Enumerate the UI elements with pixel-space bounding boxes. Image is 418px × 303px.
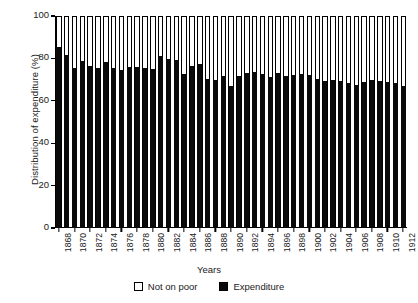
stacked-bar <box>244 16 249 228</box>
x-axis-tick-label: 1890 <box>235 233 245 252</box>
x-axis-tick-label: 1876 <box>125 233 135 252</box>
bar-slot <box>392 16 400 228</box>
bar-segment-expenditure <box>166 59 171 228</box>
stacked-bar <box>330 16 335 228</box>
x-axis-tick-label: 1872 <box>94 233 104 252</box>
stacked-bar <box>361 16 366 228</box>
bar-segment-expenditure <box>150 69 155 228</box>
stacked-bar <box>260 16 265 228</box>
bar-segment-expenditure <box>197 64 202 228</box>
y-axis-tick-label: 0 <box>44 221 49 232</box>
stacked-bar <box>299 16 304 228</box>
bar-slot <box>141 16 149 228</box>
bar-segment-expenditure <box>385 82 390 228</box>
bar-segment-expenditure <box>119 70 124 228</box>
x-axis-tick-label: 1910 <box>391 233 401 252</box>
stacked-bar <box>213 16 218 228</box>
stacked-bar <box>111 16 116 228</box>
stacked-bar <box>291 16 296 228</box>
stacked-bar <box>197 16 202 228</box>
bar-slot <box>352 16 360 228</box>
stacked-bar <box>56 16 61 228</box>
bar-slot <box>94 16 102 228</box>
x-axis-title: Years <box>0 264 418 275</box>
bar-slot <box>329 16 337 228</box>
x-axis-tick-label: 1882 <box>172 233 182 252</box>
bar-segment-expenditure <box>221 76 226 228</box>
bar-segment-expenditure <box>103 62 108 228</box>
x-axis-tick-mark <box>121 228 122 232</box>
bar-slot <box>102 16 110 228</box>
x-axis-tick-mark <box>230 228 231 232</box>
bar-segment-expenditure <box>88 66 93 228</box>
x-axis-tick-label: 1894 <box>266 233 276 252</box>
bar-slot <box>219 16 227 228</box>
legend-item-expenditure: Expenditure <box>219 281 284 292</box>
bar-segment-expenditure <box>143 68 148 228</box>
x-axis-tick-mark <box>293 228 294 232</box>
x-axis-tick-labels: 1868187018721874187618781880188218841886… <box>55 233 407 263</box>
x-axis-tick-mark <box>355 228 356 232</box>
stacked-bar <box>95 16 100 228</box>
x-axis-tick-mark <box>152 228 153 232</box>
bar-segment-expenditure <box>72 68 77 228</box>
bar-segment-expenditure <box>307 75 312 228</box>
stacked-bar <box>315 16 320 228</box>
x-axis-tick-label: 1870 <box>78 233 88 252</box>
bar-slot <box>345 16 353 228</box>
stacked-bar <box>174 16 179 228</box>
bar-segment-expenditure <box>315 79 320 228</box>
bar-slot <box>196 16 204 228</box>
bar-slot <box>71 16 79 228</box>
bar-slot <box>204 16 212 228</box>
bar-slot <box>313 16 321 228</box>
bar-slot <box>360 16 368 228</box>
x-axis-tick-label: 1884 <box>188 233 198 252</box>
bar-segment-expenditure <box>370 80 375 228</box>
legend-label-expenditure: Expenditure <box>233 281 284 292</box>
bar-segment-expenditure <box>362 82 367 228</box>
bar-segment-expenditure <box>135 67 140 228</box>
bar-segment-expenditure <box>401 86 406 228</box>
bar-segment-expenditure <box>299 74 304 228</box>
bar-slot <box>376 16 384 228</box>
bar-segment-expenditure <box>182 74 187 228</box>
stacked-bar <box>72 16 77 228</box>
bar-segment-expenditure <box>330 80 335 228</box>
stacked-bar <box>150 16 155 228</box>
x-axis-tick-label: 1906 <box>360 233 370 252</box>
bar-segment-expenditure <box>158 56 163 228</box>
bar-slot <box>251 16 259 228</box>
x-axis-tick-mark <box>58 228 59 232</box>
bar-slot <box>133 16 141 228</box>
stacked-bar <box>393 16 398 228</box>
stacked-bar <box>64 16 69 228</box>
bar-slot <box>172 16 180 228</box>
stacked-bar <box>322 16 327 228</box>
stacked-bar <box>307 16 312 228</box>
x-axis-tick-mark <box>74 228 75 232</box>
stacked-bar <box>221 16 226 228</box>
bar-segment-expenditure <box>338 81 343 228</box>
x-axis-tick-label: 1904 <box>344 233 354 252</box>
bar-segment-expenditure <box>56 47 61 228</box>
stacked-bar <box>385 16 390 228</box>
stacked-bar <box>369 16 374 228</box>
plot-area: 020406080100 <box>55 16 407 228</box>
stacked-bar <box>252 16 257 228</box>
bar-slot <box>180 16 188 228</box>
bar-segment-expenditure <box>268 77 273 228</box>
bar-segment-expenditure <box>393 83 398 228</box>
stacked-bar <box>377 16 382 228</box>
x-axis-tick-label: 1896 <box>282 233 292 252</box>
bar-slot <box>235 16 243 228</box>
bar-segment-expenditure <box>111 68 116 228</box>
x-axis-tick-label: 1908 <box>375 233 385 252</box>
x-axis-tick-mark <box>371 228 372 232</box>
bar-segment-expenditure <box>276 73 281 228</box>
bar-segment-expenditure <box>127 67 132 228</box>
stacked-bar <box>181 16 186 228</box>
stacked-bar <box>283 16 288 228</box>
bar-segment-expenditure <box>260 74 265 228</box>
stacked-bar <box>127 16 132 228</box>
